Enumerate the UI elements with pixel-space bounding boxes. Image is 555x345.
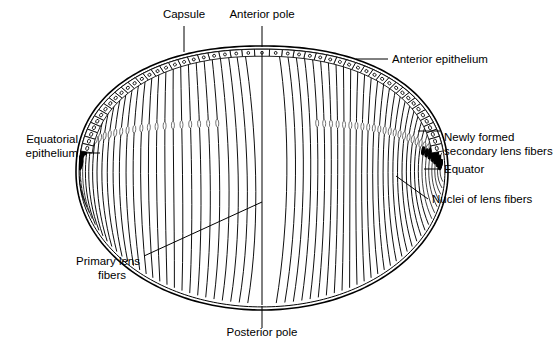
lens-fiber — [367, 72, 371, 278]
lens-fiber-nucleus — [415, 137, 419, 145]
lens-fiber — [133, 78, 140, 270]
lens-fiber-nucleus — [378, 125, 381, 133]
lens-fiber — [228, 54, 238, 302]
epithelial-cell-nucleus — [433, 139, 437, 144]
lens-fiber-nucleus — [383, 126, 387, 134]
lens-fiber — [148, 72, 152, 278]
label-line: Nuclei of lens fibers — [432, 193, 533, 205]
lens-fiber — [173, 64, 174, 288]
lens-fiber — [212, 56, 220, 300]
lens-fiber-nucleus — [407, 133, 411, 141]
label-anterior-pole: Anterior pole — [229, 8, 294, 20]
lens-fiber-nucleus — [140, 124, 143, 132]
epithelial-cell-nucleus — [318, 56, 322, 60]
lens-fiber — [245, 53, 256, 303]
lens-fiber-nucleus — [349, 121, 352, 129]
lens-fiber — [326, 58, 331, 295]
epithelial-cell-nucleus — [297, 53, 300, 56]
lens-fiber-nucleus — [402, 132, 406, 140]
epithelial-cell-nucleus — [328, 58, 332, 62]
epithelial-cell-nucleus — [235, 52, 238, 55]
lens-fiber — [310, 56, 318, 300]
label-capsule: Capsule — [163, 8, 205, 20]
lens-fiber — [181, 62, 183, 291]
lens-fiber-nucleus — [323, 119, 326, 127]
lens-fiber — [107, 93, 117, 251]
label-line: Anterior epithelium — [392, 53, 488, 65]
epithelial-cell-nucleus — [247, 51, 250, 54]
lens-fiber — [188, 60, 192, 293]
lens-fiber — [126, 82, 133, 266]
lens-fiber-nucleus — [343, 121, 346, 129]
lens-fiber-nucleus — [398, 130, 402, 138]
epithelial-cell-nucleus — [223, 53, 226, 56]
lens-fiber-nucleus — [418, 139, 422, 147]
label-nuclei-of-lens-fibers: Nuclei of lens fibers — [432, 193, 533, 205]
figure-canvas: CapsuleAnterior poleAnterior epitheliumE… — [0, 0, 555, 345]
lens-fiber-nucleus — [316, 119, 319, 127]
label-posterior-pole: Posterior pole — [227, 326, 298, 338]
lens-histology-diagram: CapsuleAnterior poleAnterior epitheliumE… — [0, 0, 555, 345]
lens-fiber — [165, 66, 167, 284]
epithelial-cell-nucleus — [308, 54, 312, 58]
lens-fiber — [220, 55, 229, 301]
epithelial-cell-nucleus — [192, 58, 196, 62]
label-equator: Equator — [444, 163, 484, 175]
lens-fiber-nucleus — [329, 120, 332, 128]
lens-fiber-nucleus — [189, 120, 192, 128]
lens-fiber — [318, 57, 324, 298]
lens-fiber — [334, 60, 337, 293]
lens-fiber-nucleus — [216, 119, 219, 127]
lens-fiber — [342, 62, 344, 291]
epithelial-cell-nucleus — [202, 56, 206, 60]
lens-fiber-nucleus — [372, 124, 375, 132]
epithelial-cell-nucleus — [182, 60, 186, 64]
lens-fiber-nucleus — [388, 127, 392, 135]
label-line: Anterior pole — [229, 8, 294, 20]
lens-fiber — [383, 82, 390, 266]
lens-fiber — [141, 75, 147, 274]
lens-fiber-nucleus — [147, 123, 150, 131]
label-line: Posterior pole — [227, 326, 298, 338]
label-line: secondary lens fibers — [444, 145, 553, 157]
epithelial-cell-nucleus — [286, 52, 289, 55]
lens-fiber — [276, 53, 287, 303]
leader-primary-lens-fibers — [144, 202, 262, 256]
label-primary-lens-fibers: Primary lensfibers — [76, 255, 140, 281]
lens-fiber — [406, 102, 416, 241]
lens-fiber — [410, 107, 421, 236]
label-anterior-epithelium: Anterior epithelium — [392, 53, 488, 65]
lens-fiber — [196, 58, 201, 295]
lens-fiber — [356, 66, 358, 284]
label-equatorial-epithelium: Equatorialepithelium — [26, 133, 78, 159]
lens-fiber-nucleus — [155, 123, 158, 131]
lens-fiber-nucleus — [133, 125, 136, 133]
lens-fiber-nucleus — [206, 119, 209, 127]
lens-fiber — [373, 75, 379, 274]
leader-lines — [82, 26, 440, 328]
lens-fiber-nucleus — [113, 129, 117, 137]
label-line: Equatorial — [26, 133, 78, 145]
lens-fiber — [350, 64, 351, 288]
epithelial-cell-nucleus — [212, 54, 215, 57]
lens-fiber — [113, 89, 122, 256]
lens-fiber-nucleus — [411, 135, 415, 143]
lens-fiber-nucleus — [103, 132, 107, 140]
lens-fiber-nucleus — [367, 123, 370, 131]
lens-fiber — [388, 85, 396, 261]
lens-fiber — [204, 57, 211, 298]
label-line: Primary lens — [76, 255, 140, 267]
lens-fiber — [362, 69, 365, 281]
lens-fiber-nucleus — [119, 127, 123, 135]
lens-fiber-nucleus — [393, 129, 397, 137]
label-line: Capsule — [163, 8, 205, 20]
label-line: epithelium — [26, 147, 78, 159]
label-line: fibers — [98, 269, 126, 281]
epithelial-cell-nucleus — [85, 146, 89, 151]
epithelial-cell-nucleus — [274, 51, 277, 54]
lens-fiber-nucleus — [197, 120, 200, 128]
lens-fiber-nucleus — [361, 123, 364, 131]
lens-fiber-nucleus — [163, 122, 166, 130]
lens-fiber-nucleus — [98, 133, 102, 141]
epithelial-cell-nucleus — [435, 146, 439, 151]
